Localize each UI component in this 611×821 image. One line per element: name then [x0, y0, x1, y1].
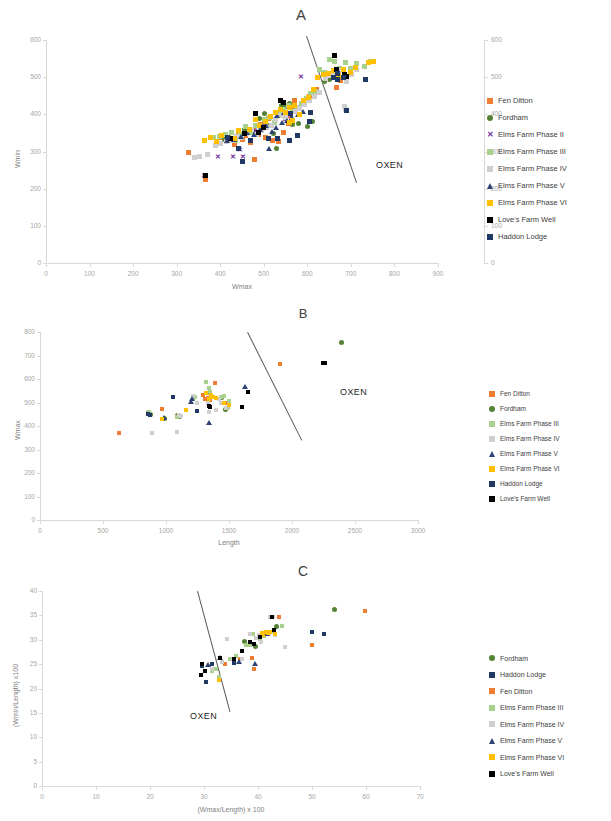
data-point — [344, 79, 349, 84]
data-point — [253, 117, 258, 122]
legend-item-A-8[interactable]: Haddon Lodge — [487, 228, 611, 245]
secondary-y-tick-label-A: 500 — [491, 73, 517, 80]
data-point — [288, 111, 293, 116]
legend-item-A-0[interactable]: Fen Ditton — [487, 92, 611, 109]
x-tick-B — [103, 521, 104, 524]
legend-item-label: Elms Farm Phase VI — [500, 754, 564, 761]
legend-item-C-3[interactable]: Elms Farm Phase III — [489, 700, 611, 717]
data-point — [232, 657, 236, 661]
legend-item-B-7[interactable]: Love's Farm Well — [489, 491, 611, 506]
legend-marker-icon: ✕ — [487, 132, 493, 138]
secondary-y-tick-A — [485, 77, 488, 78]
legend-item-B-1[interactable]: Fordham — [489, 401, 611, 416]
data-point — [208, 135, 213, 140]
legend-marker-icon — [487, 217, 493, 223]
y-axis-line-A — [46, 40, 47, 264]
y-axis-title-C: (Wmin/Length) x100 — [12, 663, 19, 726]
legend-marker-icon — [489, 496, 495, 502]
legend-item-label: Elms Farm Phase III — [498, 147, 566, 156]
legend-item-C-0[interactable]: Fordham — [489, 650, 611, 667]
x-tick-B — [229, 521, 230, 524]
data-point — [210, 667, 214, 671]
x-tick-label-B: 0 — [20, 527, 60, 534]
data-point — [353, 65, 358, 70]
x-tick-label-C: 30 — [184, 793, 224, 800]
legend-item-A-5[interactable]: Elms Farm Phase V — [487, 177, 611, 194]
plot-area-b: 0100200300400500600700800050010001500200… — [40, 332, 418, 520]
legend-item-B-3[interactable]: Elms Farm Phase IV — [489, 431, 611, 446]
legend-item-B-0[interactable]: Fen Ditton — [489, 386, 611, 401]
data-point — [283, 645, 287, 649]
legend-item-B-5[interactable]: Elms Farm Phase VI — [489, 461, 611, 476]
y-tick-label-B: 100 — [10, 493, 35, 500]
data-point — [206, 420, 212, 425]
legend-item-label: Haddon Lodge — [500, 671, 546, 678]
data-point — [202, 138, 207, 143]
y-tick-C — [39, 689, 42, 690]
data-point — [263, 119, 268, 124]
x-tick-A — [46, 264, 47, 267]
plot-area-c: 0510152025303540010203040506070(Wmax/Len… — [42, 591, 420, 786]
data-point — [343, 60, 348, 65]
data-point — [311, 87, 316, 92]
data-point — [189, 396, 195, 401]
legend-item-C-4[interactable]: Elms Farm Phase IV — [489, 716, 611, 733]
y-tick-C — [39, 640, 42, 641]
legend-item-B-6[interactable]: Haddon Lodge — [489, 476, 611, 491]
data-point — [305, 124, 310, 129]
y-axis-line-B — [40, 332, 41, 521]
legend-item-A-1[interactable]: Fordham — [487, 109, 611, 126]
data-point — [266, 146, 272, 151]
legend-item-C-2[interactable]: Fen Ditton — [489, 683, 611, 700]
legend-item-A-3[interactable]: Elms Farm Phase III — [487, 143, 611, 160]
legend-item-A-7[interactable]: Love's Farm Well — [487, 211, 611, 228]
legend-item-B-2[interactable]: Elms Farm Phase III — [489, 416, 611, 431]
legend-item-A-2[interactable]: ✕Elms Farm Phase II — [487, 126, 611, 143]
legend-a: Fen DittonFordham✕Elms Farm Phase IIElms… — [487, 92, 611, 245]
y-tick-label-C: 5 — [12, 758, 37, 765]
secondary-y-tick-label-A: 0 — [491, 259, 517, 266]
data-point — [307, 119, 312, 124]
panel-c-title: C — [283, 563, 323, 579]
legend-marker-icon — [489, 672, 495, 678]
legend-item-label: Love's Farm Well — [498, 215, 556, 224]
data-point — [197, 154, 202, 159]
legend-item-label: Elms Farm Phase V — [500, 450, 558, 457]
legend-item-C-5[interactable]: Elms Farm Phase V — [489, 733, 611, 750]
y-tick-A — [43, 226, 46, 227]
y-axis-title-B: Wmax — [14, 420, 21, 440]
y-tick-B — [37, 473, 40, 474]
legend-marker-icon — [487, 234, 493, 240]
y-tick-B — [37, 356, 40, 357]
legend-marker-icon — [489, 391, 495, 397]
x-axis-title-C: (Wmax/Length) x 100 — [171, 806, 291, 813]
data-point — [199, 673, 203, 677]
x-axis-line-C — [42, 786, 421, 787]
oxen-divider-line-C — [197, 591, 230, 712]
x-tick-A — [438, 264, 439, 267]
x-tick-label-C: 40 — [238, 793, 278, 800]
data-point — [335, 71, 340, 76]
data-point — [240, 159, 245, 164]
y-tick-label-C: 30 — [12, 636, 37, 643]
data-point — [204, 380, 208, 384]
legend-marker-icon — [487, 166, 493, 172]
legend-item-A-4[interactable]: Elms Farm Phase IV — [487, 160, 611, 177]
y-tick-label-A: 400 — [16, 110, 41, 117]
data-point — [296, 121, 301, 126]
legend-item-C-1[interactable]: Haddon Lodge — [489, 667, 611, 684]
legend-marker-icon — [487, 149, 493, 155]
x-tick-label-A: 0 — [26, 270, 66, 277]
legend-marker-icon — [489, 481, 495, 487]
data-point — [252, 157, 257, 162]
data-point — [306, 95, 311, 100]
legend-item-A-6[interactable]: Elms Farm Phase VI — [487, 194, 611, 211]
data-point — [323, 361, 327, 365]
legend-item-C-6[interactable]: Elms Farm Phase VI — [489, 749, 611, 766]
y-tick-A — [43, 189, 46, 190]
data-point — [341, 75, 346, 80]
data-point — [253, 111, 258, 116]
legend-item-C-7[interactable]: Love's Farm Well — [489, 766, 611, 783]
legend-item-B-4[interactable]: Elms Farm Phase V — [489, 446, 611, 461]
data-point — [332, 53, 337, 58]
